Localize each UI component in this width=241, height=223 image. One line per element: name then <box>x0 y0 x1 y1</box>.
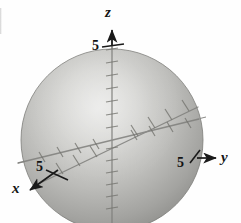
y-axis-tick-label-5: 5 <box>177 156 184 170</box>
y-axis-label: y <box>221 150 228 165</box>
sphere-3d-canvas <box>0 0 241 223</box>
x-axis-tick-label-5: 5 <box>36 160 43 174</box>
z-axis-label: z <box>105 5 111 20</box>
z-axis-tick-label-5: 5 <box>92 39 99 53</box>
sphere-3d-figure: z y x 5 5 5 <box>0 0 241 223</box>
z-axis-arrow <box>102 30 124 47</box>
x-axis-label: x <box>12 181 20 196</box>
